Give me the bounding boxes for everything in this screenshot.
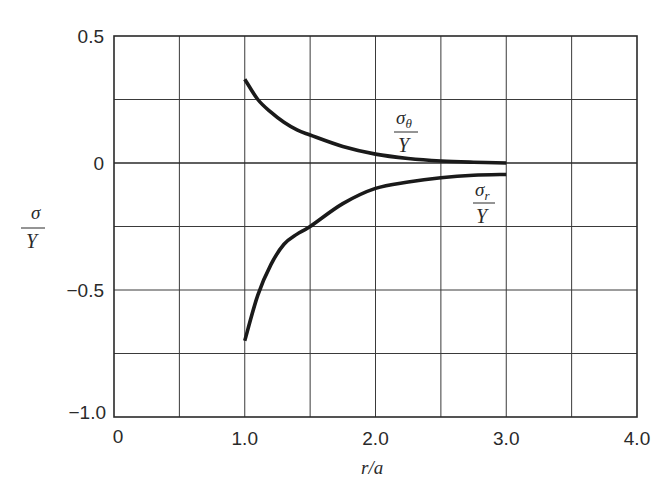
sigma-r-denominator: Y: [476, 205, 489, 227]
y-tick-labels: 0.50−0.5−1.0: [66, 26, 106, 423]
y-axis-label-denominator: Y: [26, 230, 39, 252]
series-label-sigma-r: σr Y: [473, 179, 495, 227]
y-axis-label-numerator: σ: [31, 202, 41, 223]
sigma-theta-numerator: σθ: [396, 107, 412, 131]
x-tick-label: 2.0: [362, 428, 388, 449]
x-tick-label: 1.0: [232, 428, 258, 449]
y-tick-label: 0.5: [78, 26, 104, 47]
x-axis-label: r/a: [361, 457, 383, 478]
sigma-r-numerator: σr: [475, 179, 490, 203]
y-tick-label: −1.0: [68, 402, 106, 423]
x-tick-labels: 01.02.03.04.0: [113, 426, 651, 449]
y-tick-label: −0.5: [66, 280, 104, 301]
y-axis-label: σ Y: [21, 202, 45, 252]
x-tick-label: 0: [113, 426, 124, 447]
stress-distribution-chart: 01.02.03.04.0 0.50−0.5−1.0 σθ Y σr Y σ Y…: [0, 0, 671, 495]
x-tick-label: 4.0: [624, 428, 650, 449]
series-label-sigma-theta: σθ Y: [394, 107, 418, 156]
y-tick-label: 0: [93, 153, 104, 174]
x-tick-label: 3.0: [493, 428, 519, 449]
grid-lines: [114, 36, 637, 417]
sigma-theta-denominator: Y: [398, 134, 411, 156]
